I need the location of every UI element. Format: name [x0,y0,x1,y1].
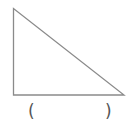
answer-open-paren: ( [28,100,35,122]
triangle-shape [14,9,125,96]
right-triangle-figure [0,0,130,100]
answer-close-paren: ) [105,100,112,122]
